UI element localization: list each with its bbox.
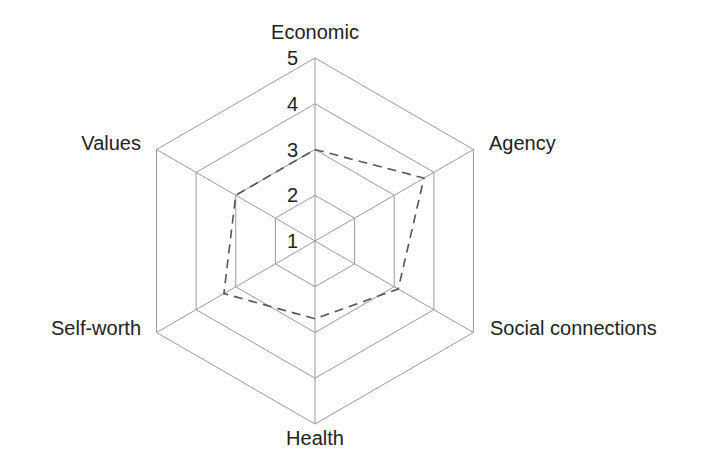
- scale-tick-label: 5: [287, 47, 298, 69]
- scale-tick-label: 4: [287, 93, 298, 115]
- axis-label-agency: Agency: [489, 132, 556, 154]
- scale-tick-label: 2: [287, 184, 298, 206]
- scale-tick-labels: 12345: [287, 47, 298, 252]
- radar-spokes: [157, 58, 474, 424]
- scale-tick-label: 1: [287, 230, 298, 252]
- axis-labels: EconomicAgencySocial connectionsHealthSe…: [51, 21, 657, 449]
- axis-label-self-worth: Self-worth: [51, 317, 141, 339]
- axis-label-values: Values: [81, 132, 141, 154]
- axis-label-economic: Economic: [271, 21, 359, 43]
- axis-label-health: Health: [286, 427, 344, 449]
- axis-label-social-connections: Social connections: [490, 317, 657, 339]
- radar-chart: 12345 EconomicAgencySocial connectionsHe…: [0, 0, 722, 466]
- scale-tick-label: 3: [287, 139, 298, 161]
